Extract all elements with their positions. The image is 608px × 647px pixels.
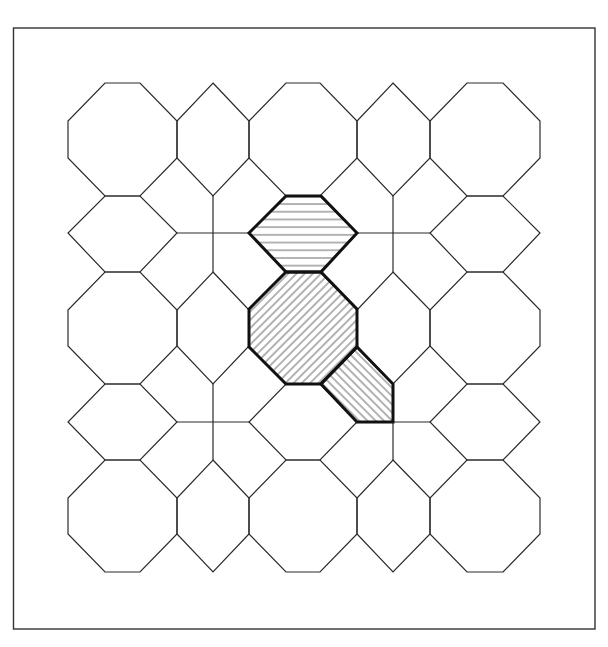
tiling-canvas: [0, 0, 608, 647]
tiling-diagram: Octagon and hexagon tiling with highligh…: [0, 0, 608, 647]
